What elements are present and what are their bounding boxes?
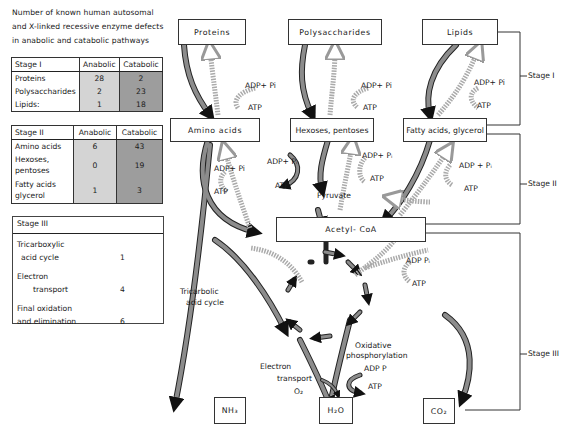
label-pyruvate: Pyruvate: [317, 191, 351, 200]
label-adp-pi: ADP Pᵢ: [406, 256, 430, 265]
label-adp-pi: ADP+ Pᵢ: [362, 151, 392, 160]
label-stage2: Stage II: [528, 179, 557, 188]
label-adp-pi: ADP+ Pi: [361, 81, 392, 90]
label-atp: ATP: [368, 382, 382, 391]
label-atp: ATP: [370, 174, 384, 183]
label-adp-pi: ADP+ Pᵢ: [267, 157, 297, 166]
label-stage1: Stage I: [528, 71, 555, 80]
label-atp: ATP: [412, 279, 426, 288]
label-atp: ATP: [275, 181, 289, 190]
box-acetyl-coa: Acetyl- CoA: [276, 217, 426, 242]
label-tca-cycle-1: Tricarbolic: [180, 287, 219, 296]
label-oxphos-2: phosphorylation: [346, 351, 407, 360]
label-adp-pi: ADP+ Pi: [245, 81, 276, 90]
label-o2: O₂: [294, 387, 303, 396]
label-atp: ATP: [477, 101, 491, 110]
label-atp: ATP: [248, 103, 262, 112]
label-adp-pi: ADP+ Pi: [474, 78, 505, 87]
label-oxphos-1: Oxidative: [355, 341, 391, 350]
label-atp: ATP: [464, 184, 478, 193]
label-electron-transport-2: transport: [277, 374, 312, 383]
box-proteins: Proteins: [178, 19, 246, 45]
box-fatty-acids-glycerol: Fatty acids, glycerol: [403, 118, 487, 142]
label-tca-cycle-2: acid cycle: [186, 298, 224, 307]
box-h2o: H₂O: [319, 397, 353, 424]
label-adp-pi: ADP+ Pi: [214, 164, 245, 173]
label-adp-pi: ADP + Pᵢ: [459, 161, 492, 170]
box-polysaccharides: Polysaccharides: [288, 19, 382, 45]
label-adp-p: ADP P: [364, 364, 387, 373]
box-amino-acids: Amino acids: [170, 118, 260, 142]
label-atp: ATP: [214, 187, 228, 196]
box-lipids: Lipids: [422, 19, 498, 45]
box-hexoses-pentoses: Hexoses, pentoses: [290, 118, 374, 142]
label-atp: ATP: [363, 103, 377, 112]
label-stage3: Stage III: [528, 349, 559, 358]
box-co2: CO₂: [423, 398, 455, 424]
label-electron-transport-1: Electron: [260, 362, 291, 371]
stage-brackets: [426, 32, 527, 410]
box-nh3: NH₃: [214, 397, 246, 424]
